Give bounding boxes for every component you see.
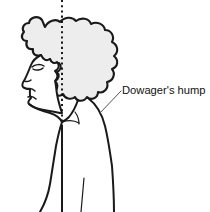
chest-front-line <box>40 122 62 212</box>
shoulder-slope-line <box>62 121 79 123</box>
neck-back-line <box>62 100 78 122</box>
illustration-figure: Dowager's hump <box>0 0 210 212</box>
hump-label-text: Dowager's hump <box>122 84 206 96</box>
dowagers-hump-curve <box>88 98 114 212</box>
hump-leader-line <box>100 91 121 113</box>
dowagers-hump-diagram: Dowager's hump <box>0 0 210 212</box>
torso-fold-line <box>81 178 84 212</box>
